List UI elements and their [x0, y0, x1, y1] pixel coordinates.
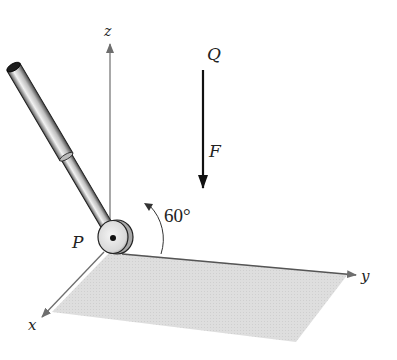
- point-p-label: P: [71, 232, 84, 252]
- rod: [5, 60, 119, 240]
- y-axis-label: y: [360, 267, 370, 285]
- x-axis-label: x: [28, 316, 37, 334]
- point-q-label: Q: [207, 44, 221, 64]
- angle-arc: [150, 206, 163, 254]
- rod-force-diagram: z y x 60° P Q F: [0, 0, 397, 360]
- z-axis-label: z: [103, 23, 112, 39]
- force-label: F: [208, 141, 222, 161]
- ground-plane: [52, 252, 348, 342]
- pivot-p: [98, 220, 133, 254]
- angle-arc-arrowhead: [144, 203, 153, 211]
- angle-label: 60°: [164, 205, 191, 226]
